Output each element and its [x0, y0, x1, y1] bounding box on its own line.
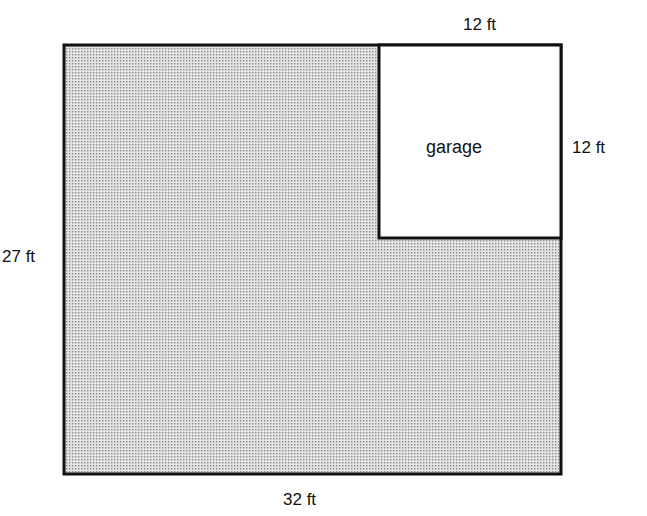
floor-plan-drawing	[0, 0, 647, 516]
house-width-label: 32 ft	[283, 490, 316, 510]
garage-name-label: garage	[426, 137, 482, 158]
house-height-label: 27 ft	[2, 247, 35, 267]
garage-width-label: 12 ft	[463, 15, 496, 35]
garage-height-label: 12 ft	[572, 138, 605, 158]
